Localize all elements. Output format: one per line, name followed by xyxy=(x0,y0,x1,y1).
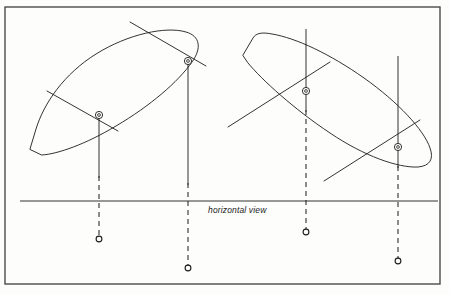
horizontal-view-caption: horizontal view xyxy=(205,205,269,216)
mast-marker-3 xyxy=(302,87,309,94)
diagram-canvas xyxy=(0,0,449,294)
mast-marker-2 xyxy=(184,57,191,64)
diagram-frame xyxy=(5,7,440,284)
projection-marker-1 xyxy=(96,236,102,242)
technical-diagram: horizontal view xyxy=(0,0,449,294)
projection-marker-2 xyxy=(185,265,191,271)
mast-marker-1 xyxy=(95,111,102,118)
mast-marker-4 xyxy=(394,143,401,150)
projection-marker-4 xyxy=(395,258,401,264)
projection-marker-3 xyxy=(303,229,309,235)
